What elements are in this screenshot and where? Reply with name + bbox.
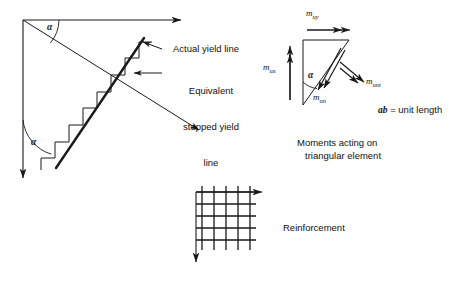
m-ux-label: mux <box>263 62 276 74</box>
equivalent-line-1: Equivalent <box>168 85 254 97</box>
m-un-subscript: un <box>320 97 327 104</box>
moment-triangle-group <box>290 30 364 105</box>
caption-line-2: triangular element <box>297 150 447 163</box>
equivalent-stepped-yield-line-label: Equivalent stepped yield line <box>168 61 254 193</box>
m-un-label: mun <box>313 92 326 104</box>
moment-diagram-caption: Moments acting on triangular element <box>297 137 447 162</box>
alpha-label-bottom: α <box>31 137 36 147</box>
m-uy-subscript: uy <box>313 13 319 20</box>
actual-yield-line-label: Actual yield line <box>173 43 239 55</box>
actual-yield-line-leader <box>143 42 162 49</box>
m-un-arrow <box>318 48 341 90</box>
equivalent-stepped-yield-line <box>41 42 152 170</box>
reinforcement-grid-group <box>196 186 262 262</box>
alpha-label-triangle: α <box>308 70 313 80</box>
m-unt-subscript: unt <box>373 81 381 88</box>
unit-length-segment: ab <box>378 105 388 115</box>
m-ux-subscript: ux <box>270 67 276 74</box>
reinforcement-label: Reinforcement <box>283 222 345 234</box>
m-unt-label: munt <box>366 76 381 88</box>
equivalent-line-2: stepped yield <box>168 121 254 133</box>
equivalent-line-3: line <box>168 157 254 169</box>
m-uy-label: muy <box>306 8 319 20</box>
m-unt-arrow <box>340 62 364 82</box>
caption-line-1: Moments acting on <box>297 137 447 150</box>
yield-line-figure: x y n t α α Actual yield line Equivalent… <box>0 0 462 287</box>
unit-length-rest: = unit length <box>388 104 443 115</box>
unit-length-note: ab = unit length <box>378 104 442 115</box>
alpha-label-top: α <box>47 22 52 32</box>
alpha-arc-bottom <box>23 120 52 154</box>
